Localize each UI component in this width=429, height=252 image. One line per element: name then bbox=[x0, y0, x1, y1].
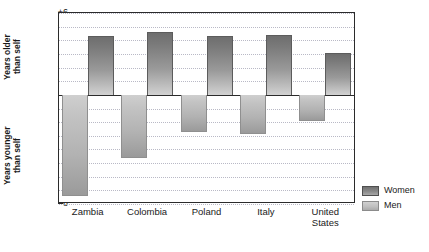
legend-item[interactable]: Women bbox=[362, 185, 415, 196]
x-axis-label-line: States bbox=[290, 217, 360, 228]
bar-men bbox=[121, 95, 147, 158]
gridline bbox=[59, 204, 354, 205]
gridline bbox=[59, 163, 354, 164]
bar-women bbox=[88, 36, 114, 95]
men-swatch bbox=[362, 201, 379, 211]
gridline bbox=[59, 122, 354, 123]
bar-chart: Years older than self Years younger than… bbox=[0, 0, 429, 252]
y-axis-title-upper: Years older than self bbox=[2, 14, 22, 100]
legend-label: Men bbox=[384, 200, 402, 211]
bar-men bbox=[299, 95, 325, 121]
y-axis-title-upper-line2: than self bbox=[12, 14, 22, 100]
legend: WomenMen bbox=[362, 185, 415, 215]
bar-men bbox=[62, 95, 88, 196]
x-axis-label-line: United bbox=[290, 206, 360, 217]
y-axis-title-lower: Years younger than self bbox=[2, 108, 22, 204]
bar-men bbox=[181, 95, 207, 132]
gridline bbox=[59, 190, 354, 191]
x-axis-label: UnitedStates bbox=[290, 206, 360, 228]
bar-women bbox=[325, 53, 351, 95]
gridline bbox=[59, 13, 354, 14]
y-axis-title-upper-line1: Years older bbox=[2, 14, 12, 100]
legend-label: Women bbox=[384, 185, 415, 196]
gridline bbox=[59, 27, 354, 28]
gridline bbox=[59, 149, 354, 150]
bar-women bbox=[207, 36, 233, 95]
legend-item[interactable]: Men bbox=[362, 200, 415, 211]
plot-area bbox=[58, 12, 355, 203]
bar-women bbox=[266, 35, 292, 95]
gridline bbox=[59, 136, 354, 137]
y-axis-title-lower-line2: than self bbox=[12, 108, 22, 204]
gridline bbox=[59, 177, 354, 178]
bar-men bbox=[240, 95, 266, 135]
women-swatch bbox=[362, 186, 379, 196]
bar-women bbox=[147, 32, 173, 95]
y-axis-title-lower-line1: Years younger bbox=[2, 108, 12, 204]
